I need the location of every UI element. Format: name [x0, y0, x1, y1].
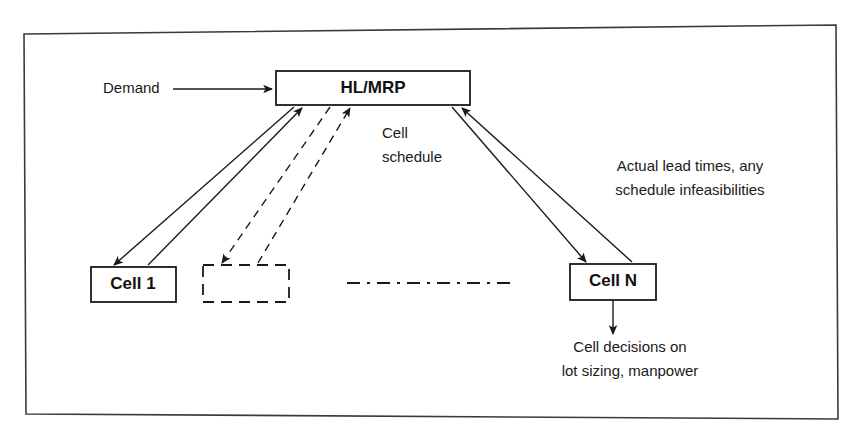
cell-decisions-label-line1: Cell decisions on [573, 338, 686, 355]
demand-label: Demand [103, 79, 160, 96]
cell-placeholder-box[interactable] [203, 265, 289, 302]
cell-schedule-label-line1: Cell [382, 124, 408, 141]
cell1-to-hlmrp-arrow [148, 108, 302, 265]
cell-n-label: Cell N [589, 271, 637, 290]
hl-mrp-label: HL/MRP [340, 78, 405, 97]
placeholder-to-hlmrp-arrow [258, 108, 350, 263]
feedback-label-line2: schedule infeasibilities [615, 181, 764, 198]
cell-decisions-label-line2: lot sizing, manpower [562, 362, 699, 379]
feedback-label-line1: Actual lead times, any [617, 157, 764, 174]
cell-1-label: Cell 1 [110, 274, 155, 293]
cell-schedule-label-line2: schedule [382, 148, 442, 165]
celln-to-hlmrp-arrow [462, 108, 632, 262]
hlmrp-to-cell1-arrow [114, 107, 294, 265]
hlmrp-to-placeholder-arrow [222, 107, 330, 263]
hlmrp-to-celln-arrow [452, 107, 586, 262]
diagram-canvas: HL/MRP Cell 1 Cell N Demand Cell schedul… [0, 0, 855, 443]
flow-diagram: HL/MRP Cell 1 Cell N Demand Cell schedul… [0, 0, 855, 443]
